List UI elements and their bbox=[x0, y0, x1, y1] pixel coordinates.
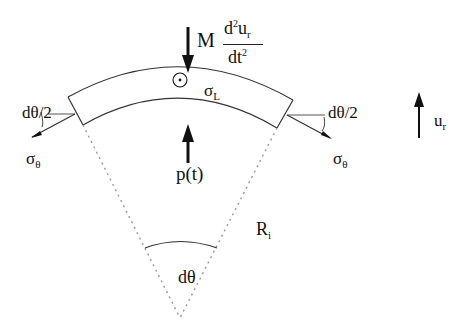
angle-label: dθ bbox=[178, 268, 196, 286]
outer-arc bbox=[68, 67, 293, 100]
inertia-arrowhead bbox=[182, 55, 194, 73]
fraction-bar bbox=[223, 44, 263, 45]
mass-label: M bbox=[197, 30, 215, 50]
inner-arc bbox=[83, 98, 277, 128]
radius-label: Ri bbox=[256, 220, 271, 238]
sigma-theta-right-label: σθ bbox=[333, 150, 347, 167]
right-angle-mark bbox=[322, 117, 325, 131]
ur-arrowhead bbox=[414, 92, 424, 107]
pressure-arrowhead bbox=[182, 124, 194, 142]
right-edge bbox=[277, 100, 293, 128]
left-edge bbox=[68, 97, 83, 125]
mass-numerator: d2ur bbox=[224, 19, 251, 37]
sigma-theta-left-label: σθ bbox=[26, 150, 40, 167]
pressure-label: p(t) bbox=[176, 164, 203, 183]
mass-denominator: dt2 bbox=[228, 48, 247, 66]
sigma-l-label: σL bbox=[204, 82, 220, 99]
left-sigma-arrowhead bbox=[31, 131, 42, 138]
right-sigma-arrowhead bbox=[321, 131, 332, 139]
angle-arc bbox=[145, 242, 217, 249]
radial-displacement-label: ur bbox=[434, 112, 446, 129]
left-radius-dotted bbox=[83, 125, 180, 318]
half-angle-left-label: dθ/2 bbox=[22, 104, 52, 121]
half-angle-right-label: dθ/2 bbox=[328, 104, 358, 121]
